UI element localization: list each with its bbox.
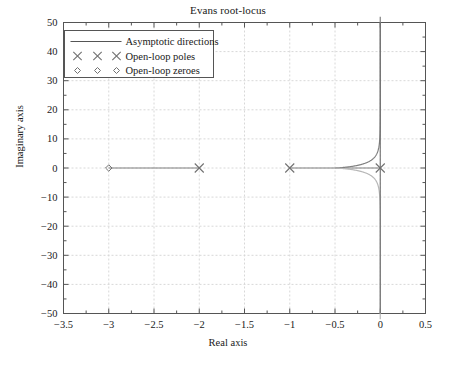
svg-text:0: 0: [52, 163, 57, 174]
legend: Asymptotic directionsOpen-loop polesOpen…: [65, 31, 219, 78]
svg-text:0: 0: [378, 319, 383, 330]
svg-text:−10: −10: [41, 192, 57, 203]
svg-text:10: 10: [47, 133, 58, 144]
svg-text:−30: −30: [41, 250, 57, 261]
svg-text:−3: −3: [103, 319, 114, 330]
svg-text:50: 50: [47, 17, 58, 28]
svg-text:−50: −50: [41, 308, 57, 319]
svg-text:−1.5: −1.5: [235, 319, 254, 330]
svg-text:−3.5: −3.5: [54, 319, 73, 330]
root-locus-plot: Evans root-locus Imaginary axis Real axi…: [0, 0, 456, 365]
svg-text:−0.5: −0.5: [325, 319, 344, 330]
svg-text:−2.5: −2.5: [144, 319, 163, 330]
plot-canvas: −3.5−3−2.5−2−1.5−1−0.500.5−50−40−30−20−1…: [0, 0, 456, 365]
svg-text:40: 40: [47, 46, 58, 57]
legend-label: Open-loop zeroes: [126, 65, 200, 76]
svg-text:0.5: 0.5: [419, 319, 432, 330]
svg-text:20: 20: [47, 104, 58, 115]
legend-label: Asymptotic directions: [126, 36, 219, 47]
svg-text:−20: −20: [41, 221, 57, 232]
svg-text:−40: −40: [41, 279, 57, 290]
svg-text:30: 30: [47, 75, 58, 86]
svg-text:−1: −1: [284, 319, 295, 330]
legend-label: Open-loop poles: [126, 51, 196, 62]
svg-text:−2: −2: [194, 319, 205, 330]
